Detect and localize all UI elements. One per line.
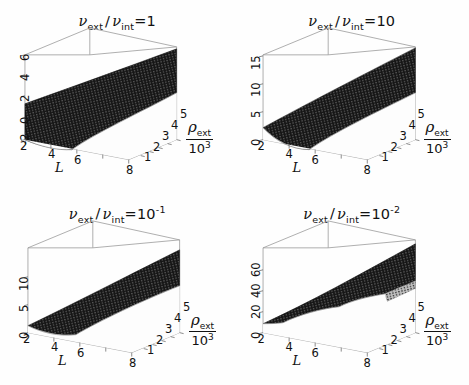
surface-plot-grid: νext/νint=1 — [0, 0, 469, 385]
surface-panel-4: νext/νint=10-2 — [235, 193, 469, 385]
panel-1-canvas — [0, 0, 235, 193]
panel-3-canvas — [0, 193, 235, 385]
surface-panel-1: νext/νint=1 — [0, 0, 235, 193]
panel-2-canvas — [235, 0, 469, 193]
panel-1-surface — [25, 49, 177, 160]
panel-4-canvas — [235, 193, 469, 385]
panel-2-surface — [263, 48, 415, 160]
surface-panel-3: νext/νint=10-1 — [0, 193, 235, 385]
surface-panel-2: νext/νint=10 — [235, 0, 469, 193]
panel-4-surface — [263, 243, 415, 352]
